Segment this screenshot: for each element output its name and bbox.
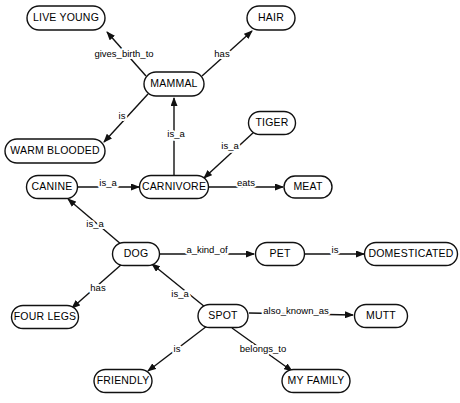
node-label-meat: MEAT xyxy=(293,180,323,192)
edge-mammal-gives_birth_to-live_young: gives_birth_togives_birth_to xyxy=(94,32,153,76)
node-mammal[interactable]: MAMMAL xyxy=(144,72,204,96)
node-pet[interactable]: PET xyxy=(256,243,305,266)
node-spot[interactable]: SPOT xyxy=(198,305,248,328)
node-label-warm_blooded: WARM BLOODED xyxy=(10,144,100,156)
node-canine[interactable]: CANINE xyxy=(27,176,78,199)
node-carnivore[interactable]: CARNIVORE xyxy=(140,176,209,199)
edge-label-pet-is-domesticated: is xyxy=(332,244,339,255)
edge-spot-is_a-dog: is_ais_a xyxy=(152,264,205,307)
node-hair[interactable]: HAIR xyxy=(247,6,295,30)
node-label-four_legs: FOUR LEGS xyxy=(14,310,76,322)
edge-label-spot-also_known_as-mutt: also_known_as xyxy=(263,305,329,316)
edge-dog-is_a-canine: is_ais_a xyxy=(68,199,122,245)
edge-tiger-is_a-carnivore: is_ais_a xyxy=(204,132,254,178)
edge-carnivore-eats-meat: eatseats xyxy=(209,177,283,188)
edge-label-spot-belongs_to-my_family: belongs_to xyxy=(240,343,286,354)
edge-label-mammal-is-warm_blooded: is xyxy=(119,110,126,121)
node-dog[interactable]: DOG xyxy=(113,243,160,266)
edge-label-tiger-is_a-carnivore: is_a xyxy=(221,140,239,151)
edge-label-mammal-gives_birth_to-live_young: gives_birth_to xyxy=(94,48,153,59)
node-friendly[interactable]: FRIENDLY xyxy=(94,370,152,393)
node-label-pet: PET xyxy=(269,247,290,259)
edge-label-dog-is_a-canine: is_a xyxy=(86,218,104,229)
edge-dog-a_kind_of-pet: a_kind_ofa_kind_of xyxy=(160,244,254,255)
edge-mammal-is-warm_blooded: isis xyxy=(104,94,148,142)
edge-spot-belongs_to-my_family: belongs_tobelongs_to xyxy=(232,328,292,371)
edge-dog-has-four_legs: hashas xyxy=(72,264,122,308)
node-my_family[interactable]: MY FAMILY xyxy=(282,370,350,393)
edge-spot-is-friendly: isis xyxy=(148,326,207,371)
node-label-spot: SPOT xyxy=(208,309,238,321)
node-tiger[interactable]: TIGER xyxy=(249,112,296,135)
node-meat[interactable]: MEAT xyxy=(284,176,332,198)
edge-line xyxy=(152,264,205,307)
edge-label-dog-a_kind_of-pet: a_kind_of xyxy=(186,244,228,255)
edge-label-spot-is_a-dog: is_a xyxy=(171,288,189,299)
node-label-mutt: MUTT xyxy=(366,309,396,321)
edge-mammal-has-hair: hashas xyxy=(202,31,252,76)
nodes-layer: LIVE YOUNGHAIRMAMMALTIGERWARM BLOODEDCAN… xyxy=(5,6,458,393)
node-label-carnivore: CARNIVORE xyxy=(142,180,206,192)
node-label-tiger: TIGER xyxy=(255,116,288,128)
edge-canine-is_a-carnivore: is_ais_a xyxy=(78,177,139,188)
edge-pet-is-domesticated: isis xyxy=(305,244,364,255)
node-domesticated[interactable]: DOMESTICATED xyxy=(365,243,458,266)
node-warm_blooded[interactable]: WARM BLOODED xyxy=(5,139,105,163)
node-four_legs[interactable]: FOUR LEGS xyxy=(12,306,79,329)
node-label-canine: CANINE xyxy=(32,180,73,192)
edge-label-carnivore-eats-meat: eats xyxy=(237,177,255,188)
node-label-dog: DOG xyxy=(124,247,149,259)
node-label-live_young: LIVE YOUNG xyxy=(33,11,99,23)
edge-label-mammal-has-hair: has xyxy=(214,48,230,59)
edge-label-canine-is_a-carnivore: is_a xyxy=(99,177,117,188)
semantic-network-diagram: gives_birth_togives_birth_tohashasisisis… xyxy=(0,0,460,403)
node-label-domesticated: DOMESTICATED xyxy=(368,247,453,259)
node-label-hair: HAIR xyxy=(258,11,284,23)
node-label-my_family: MY FAMILY xyxy=(288,374,345,386)
edge-line xyxy=(104,94,148,142)
edge-label-spot-is-friendly: is xyxy=(174,343,181,354)
node-label-mammal: MAMMAL xyxy=(150,77,197,89)
edge-label-carnivore-is_a-mammal: is_a xyxy=(167,128,185,139)
graph-canvas: gives_birth_togives_birth_tohashasisisis… xyxy=(0,0,460,403)
node-live_young[interactable]: LIVE YOUNG xyxy=(27,6,105,30)
edge-spot-also_known_as-mutt: also_known_asalso_known_as xyxy=(249,305,353,316)
edge-label-dog-has-four_legs: has xyxy=(90,282,106,293)
node-mutt[interactable]: MUTT xyxy=(355,305,408,328)
node-label-friendly: FRIENDLY xyxy=(97,374,150,386)
edge-carnivore-is_a-mammal: is_ais_a xyxy=(167,98,185,176)
